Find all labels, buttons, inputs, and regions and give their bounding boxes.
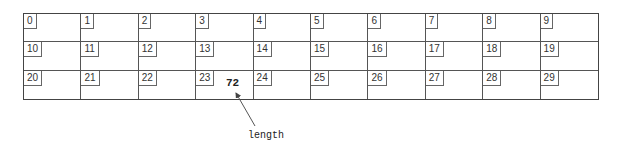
pointer-arrow-icon	[0, 0, 623, 147]
annotation-label: length	[248, 130, 284, 141]
